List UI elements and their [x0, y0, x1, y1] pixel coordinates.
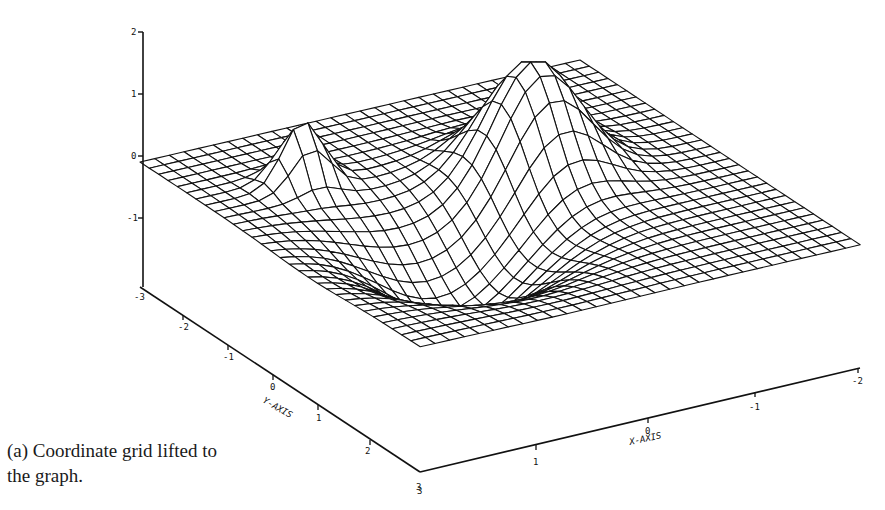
z-tick-label: -1 — [127, 213, 138, 223]
z-axis: 2 1 0 -1 — [127, 27, 143, 287]
caption-line-1: (a) Coordinate grid lifted to — [7, 438, 297, 463]
wireframe-surface — [140, 60, 860, 347]
z-tick-label: 0 — [131, 151, 136, 161]
y-tick-label: 1 — [316, 413, 321, 423]
x-tick-label: -2 — [852, 376, 863, 386]
surface-plot-figure: 2 1 0 -1 -3 -2 -1 0 1 2 3 Y-AXIS 3 — [0, 0, 885, 510]
y-tick-label: 0 — [270, 382, 275, 392]
x-tick-label: -1 — [749, 402, 760, 412]
x-tick-label: 3 — [417, 486, 422, 496]
y-tick-label: 2 — [365, 446, 370, 456]
x-axis-title: X-AXIS — [627, 430, 662, 447]
caption-line-2: the graph. — [7, 463, 297, 488]
y-axis-title: Y-AXIS — [261, 395, 295, 420]
y-tick-label: -3 — [134, 292, 145, 302]
z-tick-label: 2 — [131, 27, 136, 37]
x-tick-label: 1 — [533, 457, 538, 467]
x-axis: 3 1 0 -1 -2 X-AXIS — [417, 368, 863, 496]
y-tick-label: -1 — [223, 352, 234, 362]
z-tick-label: 1 — [131, 89, 136, 99]
y-tick-label: -2 — [178, 322, 189, 332]
figure-caption: (a) Coordinate grid lifted to the graph. — [7, 438, 297, 488]
